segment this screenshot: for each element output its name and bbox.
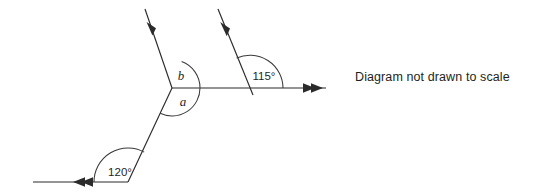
- geometry-figure: b a 115° 120°: [0, 0, 536, 194]
- angle-label-115: 115°: [253, 70, 276, 82]
- scale-note-text: Diagram not drawn to scale: [355, 70, 510, 84]
- angle-label-120: 120°: [108, 166, 132, 178]
- geometry-diagram-canvas: b a 115° 120° Diagram not drawn to scale: [0, 0, 536, 194]
- line-transversal-2: [218, 9, 253, 95]
- angle-label-b: b: [178, 68, 185, 83]
- angle-label-a: a: [180, 94, 187, 109]
- line-transversal-1: [145, 9, 172, 88]
- arc-angle-b: [182, 62, 200, 88]
- arrowhead-transversal-1: [147, 22, 156, 36]
- line-segment-v1-v3: [128, 88, 172, 182]
